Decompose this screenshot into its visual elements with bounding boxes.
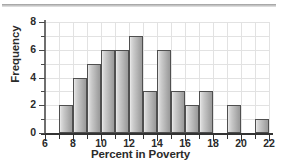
y-tick-minor — [41, 119, 45, 120]
y-tick-major — [39, 105, 45, 106]
y-tick-major — [39, 22, 45, 23]
x-tick-minor — [87, 135, 88, 139]
x-tick-minor — [227, 135, 228, 139]
gridline-vertical — [269, 22, 270, 133]
y-tick-minor — [41, 91, 45, 92]
histogram-bar — [255, 119, 269, 133]
x-tick-minor — [143, 135, 144, 139]
histogram-bar — [185, 105, 199, 133]
histogram-bar — [115, 50, 129, 133]
y-tick-minor — [41, 36, 45, 37]
x-tick-label: 12 — [117, 137, 141, 149]
x-tick-label: 10 — [89, 137, 113, 149]
x-tick-label: 6 — [33, 137, 57, 149]
y-tick-major — [39, 78, 45, 79]
histogram-bar — [199, 91, 213, 133]
top-divider — [2, 4, 276, 7]
y-tick-major — [39, 133, 45, 134]
x-tick-label: 18 — [201, 137, 225, 149]
histogram-bar — [129, 36, 143, 133]
y-tick-label: 4 — [22, 71, 36, 83]
x-tick-label: 8 — [61, 137, 85, 149]
x-axis-title: Percent in Poverty — [0, 148, 281, 160]
x-tick-minor — [115, 135, 116, 139]
histogram-bar — [157, 50, 171, 133]
histogram-bar — [143, 91, 157, 133]
histogram-bar — [171, 91, 185, 133]
x-tick-label: 16 — [173, 137, 197, 149]
x-tick-label: 14 — [145, 137, 169, 149]
histogram-bar — [87, 64, 101, 133]
histogram-bar — [73, 78, 87, 134]
histogram-figure: Frequency Percent in Poverty 68101214161… — [0, 0, 281, 165]
x-tick-minor — [59, 135, 60, 139]
x-tick-minor — [171, 135, 172, 139]
y-tick-label: 8 — [22, 15, 36, 27]
y-tick-minor — [41, 64, 45, 65]
x-tick-minor — [255, 135, 256, 139]
y-tick-label: 0 — [22, 126, 36, 138]
x-tick-label: 22 — [257, 137, 281, 149]
y-tick-label: 6 — [22, 43, 36, 55]
plot-area — [45, 22, 269, 133]
y-axis-title: Frequency — [9, 9, 23, 99]
histogram-bar — [101, 50, 115, 133]
histogram-bar — [59, 105, 73, 133]
gridline-horizontal — [45, 22, 269, 23]
x-tick-minor — [199, 135, 200, 139]
gridline-horizontal — [45, 36, 269, 37]
x-tick-label: 20 — [229, 137, 253, 149]
y-tick-major — [39, 50, 45, 51]
histogram-bar — [227, 105, 241, 133]
y-tick-label: 2 — [22, 98, 36, 110]
